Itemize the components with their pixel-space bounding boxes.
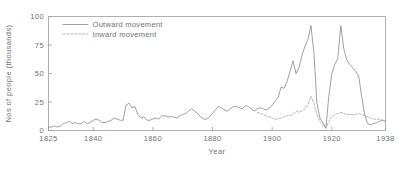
chart-legend: Outward movementInward movement — [63, 20, 163, 39]
data-series-group — [49, 26, 386, 129]
series-line-inward — [257, 96, 385, 128]
x-tick-label: 1920 — [323, 134, 341, 143]
legend-label: Inward movement — [93, 30, 158, 39]
series-line-outward — [49, 26, 386, 129]
line-chart-figure: 0255075100 1825184018601880190019201938 … — [0, 0, 405, 169]
legend-label: Outward movement — [93, 20, 164, 29]
y-tick-label: 75 — [35, 41, 44, 50]
x-axis-title: Year — [209, 147, 226, 156]
x-tick-label: 1860 — [144, 134, 162, 143]
y-tick-label: 100 — [30, 12, 44, 21]
x-tick-label: 1938 — [376, 134, 394, 143]
x-tick-label: 1840 — [84, 134, 102, 143]
chart-canvas: 0255075100 1825184018601880190019201938 … — [0, 0, 405, 169]
x-tick-label: 1880 — [203, 134, 221, 143]
y-tick-label: 25 — [35, 98, 44, 107]
y-tick-label: 50 — [35, 69, 44, 78]
x-tick-label: 1825 — [39, 134, 57, 143]
x-tick-label: 1900 — [263, 134, 281, 143]
x-axis-ticks: 1825184018601880190019201938 — [39, 127, 394, 143]
y-axis-title: Nos of people (thousands) — [4, 24, 13, 122]
